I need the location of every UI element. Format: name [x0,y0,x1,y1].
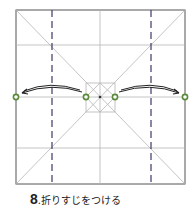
step-number: 8 [30,191,38,207]
marker-center-left [83,94,88,99]
marker-right-edge [182,94,187,99]
marker-center-right [112,94,117,99]
step-caption: 8.折りすじをつける [30,191,121,207]
marker-left-edge [13,94,18,99]
origami-diagram [0,0,192,190]
step-instruction: 折りすじをつける [41,195,121,206]
center-point [99,96,102,99]
